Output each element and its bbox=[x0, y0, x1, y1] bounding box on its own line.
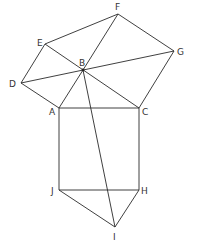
segment-ba bbox=[59, 70, 83, 108]
segment-de bbox=[21, 44, 45, 83]
segment-fb bbox=[83, 14, 118, 70]
label-I: I bbox=[113, 232, 116, 242]
segment-ji bbox=[59, 190, 115, 227]
point-b-dot bbox=[82, 69, 85, 72]
label-D: D bbox=[9, 79, 16, 89]
segment-dg bbox=[21, 51, 174, 83]
label-E: E bbox=[37, 38, 43, 48]
segment-ef bbox=[45, 14, 118, 44]
segment-ec bbox=[45, 44, 139, 108]
segment-hi bbox=[115, 190, 139, 227]
segment-ad bbox=[21, 83, 59, 108]
label-A: A bbox=[49, 107, 56, 117]
label-G: G bbox=[177, 47, 184, 57]
label-F: F bbox=[115, 2, 120, 12]
geometry-diagram: A B C D E F G H I J bbox=[0, 0, 203, 246]
segment-gc bbox=[139, 51, 174, 108]
label-B: B bbox=[79, 58, 85, 68]
segments bbox=[21, 14, 174, 227]
label-C: C bbox=[142, 107, 148, 117]
label-J: J bbox=[50, 186, 54, 196]
label-H: H bbox=[141, 186, 148, 196]
point-labels: A B C D E F G H I J bbox=[9, 2, 184, 242]
segment-fg bbox=[118, 14, 174, 51]
segment-bi bbox=[83, 70, 115, 227]
